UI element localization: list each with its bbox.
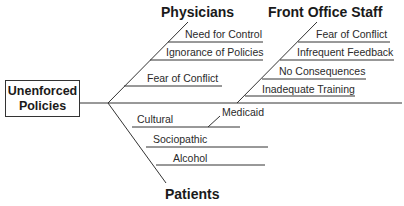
category-physicians: Physicians xyxy=(161,4,234,20)
cause-alcohol: Alcohol xyxy=(173,152,207,164)
fishbone-diagram: Unenforced Policies Physicians Front Off… xyxy=(0,0,404,206)
cause-fear-of-conflict-physicians: Fear of Conflict xyxy=(147,72,218,84)
cause-need-for-control: Need for Control xyxy=(185,28,262,40)
effect-label-line2: Policies xyxy=(19,99,66,114)
effect-box: Unenforced Policies xyxy=(5,80,80,117)
cause-infrequent-feedback: Infrequent Feedback xyxy=(297,46,393,58)
cause-sociopathic: Sociopathic xyxy=(153,133,207,145)
cause-cultural: Cultural xyxy=(137,113,173,125)
cause-medicaid: Medicaid xyxy=(222,106,264,118)
cause-no-consequences: No Consequences xyxy=(279,65,365,77)
effect-label-line1: Unenforced xyxy=(8,84,77,99)
category-front-office-staff: Front Office Staff xyxy=(268,4,382,20)
cause-inadequate-training: Inadequate Training xyxy=(262,83,355,95)
category-patients: Patients xyxy=(165,186,219,202)
branch-medicaid xyxy=(208,116,220,127)
physicians-bone xyxy=(108,22,188,103)
cause-fear-of-conflict-staff: Fear of Conflict xyxy=(316,28,387,40)
cause-ignorance-of-policies: Ignorance of Policies xyxy=(166,46,263,58)
